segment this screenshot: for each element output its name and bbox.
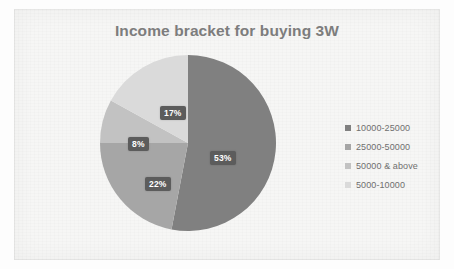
legend-label: 50000 & above [356,161,418,171]
legend-item-25000-50000[interactable]: 25000-50000 [345,137,453,156]
legend-item-5000-10000[interactable]: 5000-10000 [345,175,453,194]
legend-label: 10000-25000 [356,123,410,133]
data-label-50000-above: 8% [128,137,149,151]
chart-legend: 10000-25000 25000-50000 50000 & above 50… [345,118,453,194]
legend-swatch-icon [345,125,351,131]
pie-slices [100,55,276,231]
chart-title: Income bracket for buying 3W [14,22,440,40]
legend-item-50000-above[interactable]: 50000 & above [345,156,453,175]
legend-label: 25000-50000 [356,142,410,152]
legend-swatch-icon [345,163,351,169]
legend-swatch-icon [345,144,351,150]
data-label-5000-10000: 17% [160,106,186,120]
legend-item-10000-25000[interactable]: 10000-25000 [345,118,453,137]
legend-swatch-icon [345,182,351,188]
chart-screenshot: Income bracket for buying 3W 53% 22% 8% … [0,0,454,269]
legend-label: 5000-10000 [356,180,405,190]
pie-chart [99,53,277,233]
chart-area: Income bracket for buying 3W 53% 22% 8% … [14,9,440,260]
pie-svg [99,53,277,233]
data-label-25000-50000: 22% [145,177,171,191]
data-label-10000-25000: 53% [210,151,236,165]
